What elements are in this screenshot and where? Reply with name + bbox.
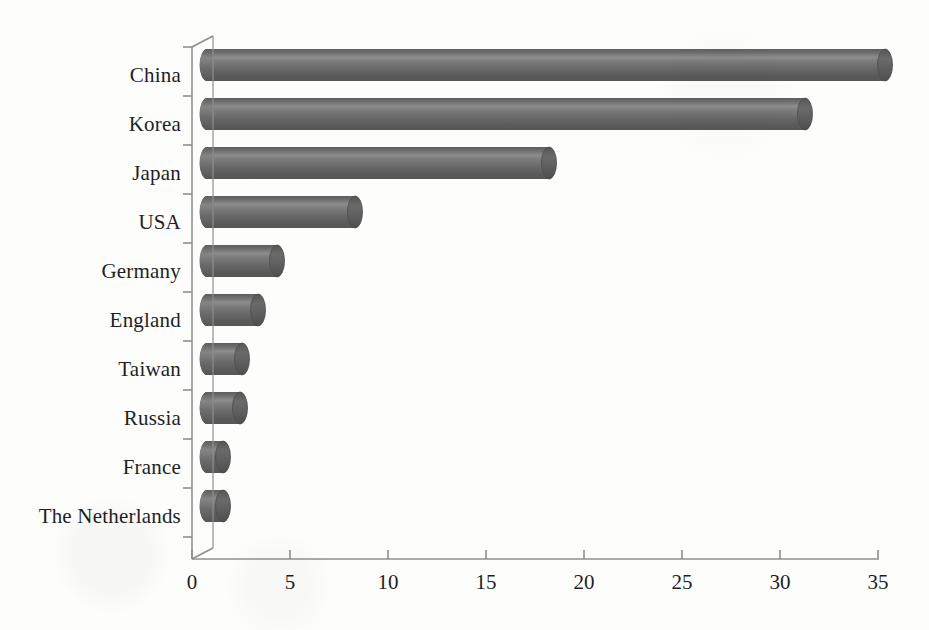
x-tick-label: 25	[672, 572, 693, 593]
x-tick-label: 5	[285, 572, 296, 593]
x-tick-label: 10	[378, 572, 399, 593]
x-tick-label: 30	[770, 572, 791, 593]
x-axis-labels: 0 5 10 15 20 25 30 35	[0, 0, 929, 630]
x-tick-label: 35	[868, 572, 889, 593]
x-tick-label: 20	[574, 572, 595, 593]
x-tick-label: 15	[476, 572, 497, 593]
x-tick-label: 0	[187, 572, 198, 593]
bar-chart: China Korea Japan USA Germany England Ta…	[0, 0, 929, 630]
